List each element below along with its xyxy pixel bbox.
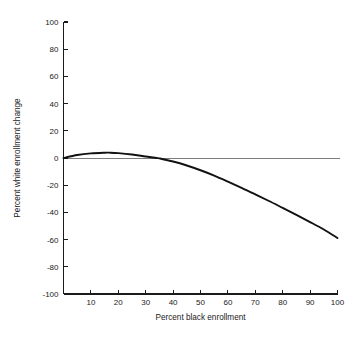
y-tick-label--100: -100 bbox=[42, 290, 59, 299]
y-tick-label-20: 20 bbox=[50, 127, 59, 136]
data-series-0 bbox=[64, 153, 338, 238]
x-tick-label-40: 40 bbox=[169, 298, 178, 307]
x-tick-label-80: 80 bbox=[278, 298, 287, 307]
x-tick-label-30: 30 bbox=[141, 298, 150, 307]
y-tick-label-80: 80 bbox=[50, 45, 59, 54]
x-tick-label-70: 70 bbox=[251, 298, 260, 307]
y-tick-label--80: -80 bbox=[47, 263, 59, 272]
chart-figure: 100806040200-20-40-60-80-100102030405060… bbox=[0, 0, 360, 340]
y-tick-label--40: -40 bbox=[47, 208, 59, 217]
y-axis-title: Percent white enrollment change bbox=[13, 98, 22, 218]
y-tick-label--20: -20 bbox=[47, 181, 59, 190]
y-tick-label-60: 60 bbox=[50, 72, 59, 81]
y-tick-label-100: 100 bbox=[45, 18, 59, 27]
y-tick-label-40: 40 bbox=[50, 100, 59, 109]
y-tick-label--60: -60 bbox=[47, 236, 59, 245]
y-tick-label-0: 0 bbox=[54, 154, 59, 163]
x-tick-label-60: 60 bbox=[223, 298, 232, 307]
x-tick-label-50: 50 bbox=[196, 298, 205, 307]
x-tick-label-100: 100 bbox=[331, 298, 345, 307]
chart-canvas: 100806040200-20-40-60-80-100102030405060… bbox=[0, 0, 360, 340]
x-tick-label-20: 20 bbox=[114, 298, 123, 307]
x-tick-label-10: 10 bbox=[86, 298, 95, 307]
x-axis-title: Percent black enrollment bbox=[155, 313, 246, 322]
x-tick-label-90: 90 bbox=[306, 298, 315, 307]
